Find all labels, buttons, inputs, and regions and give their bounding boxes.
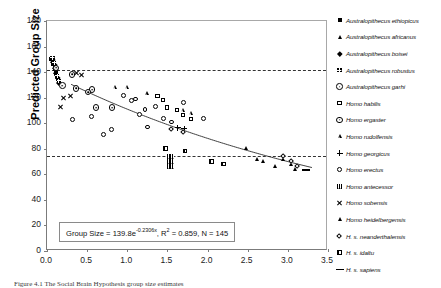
data-point <box>67 93 73 99</box>
legend-item-label: H. s. sapiens <box>346 266 380 273</box>
data-point <box>175 125 181 131</box>
data-point <box>255 157 259 161</box>
data-point <box>155 94 159 98</box>
x-tick-3.0: 3.0 <box>272 256 302 264</box>
legend-marker-icon <box>333 200 346 206</box>
y-tick-40: 40 <box>15 195 41 203</box>
marker-glyph <box>337 167 342 172</box>
data-point <box>221 162 225 166</box>
data-point <box>125 85 129 89</box>
data-point <box>121 93 126 98</box>
legend-item-1[interactable]: Australopithecus africanus <box>333 29 441 46</box>
legend-marker-icon <box>333 250 346 254</box>
y-tick-60: 60 <box>15 169 41 177</box>
sample-size-label: , N = 145 <box>197 229 228 238</box>
legend-item-2[interactable]: Australopithecus boisei <box>333 45 441 62</box>
marker-glyph <box>337 51 342 56</box>
marker-glyph <box>338 217 342 221</box>
equation-prefix: Group Size = 139.8e <box>66 229 136 238</box>
r-squared-value: = 0.859 <box>170 229 198 238</box>
data-point <box>101 132 106 137</box>
data-point <box>201 116 206 121</box>
legend-item-11[interactable]: Homo sobensis <box>333 195 441 212</box>
legend-item-0[interactable]: Australopithecus ethiopicus <box>333 12 441 29</box>
y-tick-180: 180 <box>15 16 41 24</box>
marker-glyph <box>337 200 343 206</box>
data-point <box>302 169 310 170</box>
data-point <box>113 85 117 89</box>
data-point <box>181 108 185 112</box>
legend-item-15[interactable]: H. s. sapiens <box>333 261 441 278</box>
data-point <box>61 95 67 101</box>
data-point <box>161 98 165 102</box>
data-point <box>50 56 54 60</box>
data-point <box>170 159 175 164</box>
marker-glyph <box>338 134 342 138</box>
legend-marker-icon <box>333 52 346 56</box>
legend-item-label: Homo heidelbergensis <box>346 216 406 223</box>
legend-item-label: H. s. idaltu <box>346 249 374 256</box>
legend-item-14[interactable]: H. s. idaltu <box>333 244 441 261</box>
legend-item-9[interactable]: Homo erectus <box>333 161 441 178</box>
y-tick-140: 140 <box>15 67 41 75</box>
legend-item-3[interactable]: Australopithecus robustus <box>333 62 441 79</box>
data-point <box>161 116 166 121</box>
marker-glyph <box>337 184 342 189</box>
legend-item-4[interactable]: Australopithecus garhi <box>333 78 441 95</box>
data-point <box>93 104 100 111</box>
legend-item-10[interactable]: Homo antecessor <box>333 178 441 195</box>
legend-item-label: Homo habilis <box>346 100 381 107</box>
data-point <box>244 146 248 150</box>
legend: Australopithecus ethiopicusAustralopithe… <box>333 12 441 278</box>
legend-item-label: Homo erectus <box>346 166 383 173</box>
legend-item-8[interactable]: Homo georgicus <box>333 145 441 162</box>
legend-item-label: Australopithecus ethiopicus <box>346 17 419 24</box>
data-point <box>59 82 66 89</box>
marker-glyph <box>337 150 343 156</box>
legend-item-label: H. s. neanderthalensis <box>346 233 405 240</box>
data-point <box>109 127 114 132</box>
legend-marker-icon <box>333 184 346 189</box>
data-point <box>78 72 84 78</box>
data-point <box>181 100 186 105</box>
marker-glyph <box>336 269 344 270</box>
figure-caption: Figure 4.1 The Social Brain Hypothesis g… <box>14 280 184 288</box>
data-point <box>163 146 167 150</box>
x-tick-1.5: 1.5 <box>151 256 181 264</box>
legend-marker-icon <box>333 68 346 72</box>
legend-marker-icon <box>333 35 346 39</box>
legend-item-label: Australopithecus africanus <box>346 33 416 40</box>
x-tick-1.0: 1.0 <box>111 256 141 264</box>
legend-item-label: Australopithecus garhi <box>346 83 405 90</box>
data-point <box>175 108 179 112</box>
legend-marker-icon <box>333 134 346 138</box>
x-tickmark <box>328 249 329 252</box>
legend-marker-icon <box>333 83 346 90</box>
data-point <box>73 85 80 92</box>
regression-equation-box: Group Size = 139.8e-0.2306x, R2 = 0.859,… <box>59 222 235 242</box>
data-point <box>181 113 185 117</box>
data-point <box>183 149 187 153</box>
exponential-fit-curve <box>47 21 328 251</box>
legend-item-6[interactable]: Homo ergaster <box>333 112 441 129</box>
data-point <box>57 104 63 110</box>
data-point <box>70 117 75 122</box>
y-tick-0: 0 <box>15 246 41 254</box>
data-point <box>209 159 213 163</box>
data-point <box>169 120 174 125</box>
marker-glyph <box>336 83 343 90</box>
data-point <box>261 159 265 163</box>
data-point <box>273 164 277 168</box>
legend-marker-icon <box>333 18 346 22</box>
y-tick-80: 80 <box>15 144 41 152</box>
legend-item-label: Australopithecus robustus <box>346 67 415 74</box>
data-point <box>55 74 59 78</box>
legend-item-label: Homo georgicus <box>346 150 390 157</box>
legend-item-label: Homo ergaster <box>346 116 386 123</box>
legend-item-7[interactable]: Homo rudolfensis <box>333 128 441 145</box>
legend-item-13[interactable]: H. s. neanderthalensis <box>333 228 441 245</box>
data-point <box>89 114 94 119</box>
legend-item-5[interactable]: Homo habilis <box>333 95 441 112</box>
legend-item-label: Homo rudolfensis <box>346 133 393 140</box>
legend-item-12[interactable]: Homo heidelbergensis <box>333 211 441 228</box>
